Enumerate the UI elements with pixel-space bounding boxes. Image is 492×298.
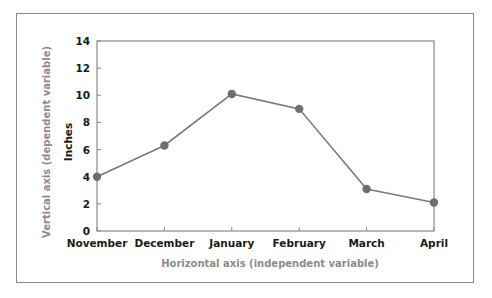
x-axis: NovemberDecemberJanuaryFebruaryMarchApri… bbox=[67, 227, 448, 249]
x-tick-label: January bbox=[208, 237, 254, 249]
plot-area bbox=[97, 41, 434, 231]
y-unit-label: Inches bbox=[62, 123, 74, 161]
series-line bbox=[97, 94, 434, 203]
data-point-marker bbox=[160, 141, 168, 149]
data-point-marker bbox=[362, 185, 370, 193]
y-tick-label: 4 bbox=[83, 171, 90, 183]
x-tick-label: February bbox=[273, 237, 326, 249]
y-tick-label: 10 bbox=[75, 89, 90, 101]
y-tick-label: 2 bbox=[83, 198, 90, 210]
data-point-marker bbox=[228, 90, 236, 98]
x-axis-title: Horizontal axis (independent variable) bbox=[161, 258, 379, 269]
y-tick-label: 12 bbox=[75, 62, 90, 74]
data-series bbox=[93, 90, 438, 207]
x-tick-label: April bbox=[420, 237, 448, 249]
y-tick-label: 14 bbox=[75, 35, 90, 47]
data-point-marker bbox=[93, 173, 101, 181]
x-tick-label: December bbox=[134, 237, 195, 249]
y-tick-label: 8 bbox=[83, 116, 90, 128]
data-point-marker bbox=[295, 105, 303, 113]
y-axis-title: Vertical axis (dependent variable) bbox=[41, 46, 52, 238]
plot-border bbox=[97, 41, 434, 231]
y-tick-label: 0 bbox=[83, 225, 90, 237]
data-point-marker bbox=[430, 198, 438, 206]
line-chart: 02468101214 NovemberDecemberJanuaryFebru… bbox=[0, 0, 492, 298]
y-tick-label: 6 bbox=[83, 144, 90, 156]
x-tick-label: March bbox=[348, 237, 384, 249]
x-tick-label: November bbox=[67, 237, 129, 249]
